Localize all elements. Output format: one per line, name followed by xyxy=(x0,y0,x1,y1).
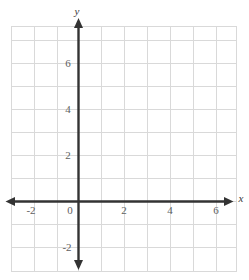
y-tick-label-neg2: -2 xyxy=(62,242,71,253)
y-tick-label-2: 2 xyxy=(65,150,71,161)
x-tick-label-6: 6 xyxy=(213,205,219,216)
x-tick-label-neg2: -2 xyxy=(26,205,35,216)
y-axis-label: y xyxy=(75,6,80,17)
x-axis-label: x xyxy=(239,193,244,204)
coordinate-plane-figure: -2 0 2 4 6 6 4 2 -2 y x xyxy=(0,0,249,280)
x-tick-label-0: 0 xyxy=(67,205,73,216)
y-tick-label-6: 6 xyxy=(65,58,71,69)
x-tick-label-4: 4 xyxy=(167,205,173,216)
grid-and-axes-svg xyxy=(0,0,249,280)
x-tick-label-2: 2 xyxy=(121,205,127,216)
y-tick-label-4: 4 xyxy=(65,104,71,115)
